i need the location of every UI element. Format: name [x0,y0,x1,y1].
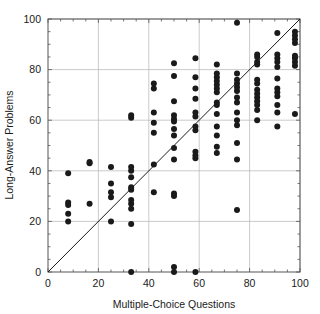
data-point [192,74,198,80]
data-point [254,51,260,57]
data-point [192,269,198,275]
data-point [274,75,280,81]
data-point [108,218,114,224]
data-point [128,174,134,180]
y-axis-title: Long-Answer Problems [3,90,15,199]
data-point [151,120,157,126]
data-point [292,53,298,59]
x-axis-title: Multiple-Choice Questions [113,298,236,310]
data-point [65,211,71,217]
data-point [234,94,240,100]
x-tick-label: 60 [193,277,205,289]
x-tick-label: 20 [93,277,105,289]
data-point [274,51,280,57]
x-tick-label: 0 [45,277,51,289]
data-point [192,149,198,155]
data-point [274,30,280,36]
y-tick-label: 0 [35,266,41,278]
data-point [171,156,177,162]
data-point [234,110,240,116]
data-point [128,112,134,118]
data-point [171,191,177,197]
x-tick-label: 40 [143,277,155,289]
data-point [151,81,157,87]
data-point [214,150,220,156]
x-tick-label: 80 [244,277,256,289]
data-point [108,164,114,170]
data-point [234,140,240,146]
data-point [234,77,240,83]
data-point [234,117,240,123]
data-point [151,189,157,195]
data-point [192,96,198,102]
data-point [171,145,177,151]
data-point [254,87,260,93]
data-point [128,197,134,203]
chart-canvas: 020406080100 020406080100 Multiple-Choic… [0,0,320,314]
data-point [171,126,177,132]
data-point [108,189,114,195]
data-point [234,20,240,26]
data-point [192,55,198,61]
data-point [128,184,134,190]
data-point [254,77,260,83]
data-point [151,130,157,136]
data-point [151,161,157,167]
data-point [65,199,71,205]
data-point [171,264,177,270]
data-point [65,218,71,224]
data-point [234,207,240,213]
data-point [171,73,177,79]
data-point [214,111,220,117]
data-point [171,60,177,66]
data-point [128,269,134,275]
y-tick-label: 60 [29,114,41,126]
data-point [254,117,260,123]
data-point [151,110,157,116]
data-point [171,112,177,118]
data-point [274,110,280,116]
data-point [171,98,177,104]
data-point [128,164,134,170]
scatter-plot-figure: 020406080100 020406080100 Multiple-Choic… [0,0,320,314]
data-point [65,170,71,176]
data-point [274,102,280,108]
data-point [192,124,198,130]
data-point [214,144,220,150]
data-point [87,159,93,165]
y-tick-label: 40 [29,165,41,177]
data-point [108,180,114,186]
y-tick-label: 80 [29,63,41,75]
data-point [214,70,220,76]
data-point [274,124,280,130]
data-point [87,201,93,207]
data-point [292,111,298,117]
data-point [274,86,280,92]
data-point [214,62,220,68]
data-point [234,70,240,76]
data-point [214,124,220,130]
data-point [214,99,220,105]
data-point [214,132,220,138]
data-point [234,156,240,162]
y-tick-label: 20 [29,215,41,227]
data-point [192,86,198,92]
data-point [128,221,134,227]
data-point [171,132,177,138]
y-tick-label: 100 [23,13,41,25]
data-point [292,29,298,35]
x-tick-label: 100 [291,277,309,289]
data-point [192,110,198,116]
